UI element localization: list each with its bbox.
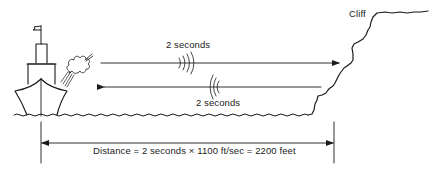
- smoke-puff-icon: [61, 54, 93, 87]
- return-time-label: 2 seconds: [196, 98, 240, 108]
- water-surface-icon: [14, 114, 308, 116]
- echo-distance-diagram: Cliff 2 seconds 2 seconds Distance = 2 s…: [0, 0, 440, 172]
- ship-icon: [15, 26, 67, 116]
- outgoing-time-label: 2 seconds: [166, 40, 210, 50]
- cliff-label: Cliff: [349, 9, 366, 19]
- distance-dimension-icon: [41, 122, 334, 163]
- distance-formula-label: Distance = 2 seconds × 1100 ft/sec = 220…: [92, 146, 297, 156]
